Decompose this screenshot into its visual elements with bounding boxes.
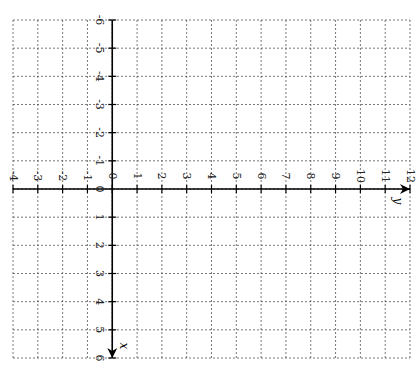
y-axis-tick-label: 11	[379, 169, 392, 183]
y-axis-tick-label: -3	[31, 171, 44, 182]
y-axis-tick-label: -2	[56, 171, 69, 182]
x-axis-tick-label: 4	[93, 298, 106, 305]
y-axis-tick-label: 7	[279, 173, 292, 180]
x-axis-tick-label: -5	[93, 43, 106, 54]
x-axis-tick-label: 3	[93, 270, 106, 277]
y-axis-tick-label: 2	[155, 173, 168, 180]
y-axis-tick-label: 10	[354, 169, 367, 183]
y-axis-tick-label: -4	[7, 171, 20, 182]
axes	[13, 20, 410, 358]
x-axis-tick-label: -1	[93, 155, 106, 166]
y-axis-tick-label: 6	[255, 173, 268, 180]
y-axis-tick-label: 1	[131, 173, 144, 180]
x-axis-tick-label: 5	[93, 326, 106, 333]
x-axis-tick-label: 2	[93, 242, 106, 249]
x-axis-tick-label: 1	[93, 214, 106, 221]
x-axis-tick-label: -2	[93, 127, 106, 138]
x-axis-tick-label: -3	[93, 99, 106, 110]
y-axis-tick-label: 8	[304, 173, 317, 180]
x-axis-name: x	[117, 343, 131, 350]
y-axis-tick-label: 9	[329, 173, 342, 180]
x-axis-tick-label: -6	[93, 15, 106, 26]
y-axis-tick-label: 0	[106, 173, 119, 180]
y-axis-name: y	[391, 197, 405, 205]
y-axis-tick-label: 12	[404, 169, 417, 183]
y-axis-tick-label: 5	[230, 173, 243, 180]
origin-label: 0	[93, 186, 106, 193]
coordinate-grid-chart: -4-3-2-10123456789101112-6-5-4-3-2-11234…	[0, 0, 419, 380]
y-axis-tick-label: -1	[81, 171, 94, 182]
y-axis-tick-label: 3	[180, 173, 193, 180]
x-axis-tick-label: -4	[93, 71, 106, 82]
y-axis-tick-label: 4	[205, 173, 218, 180]
x-axis-tick-label: 6	[93, 355, 106, 362]
